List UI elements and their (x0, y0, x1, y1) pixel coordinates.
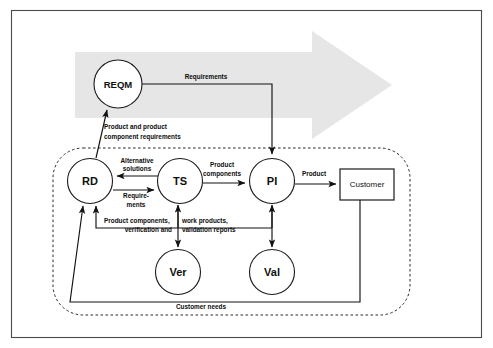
node-ts-label: TS (173, 175, 187, 187)
edge-label-ments: ments (127, 201, 146, 208)
edge-label-product-out: Product (302, 170, 327, 177)
edge-label-component-requirements: component requirements (104, 133, 181, 141)
node-customer-label: Customer (350, 180, 385, 189)
edge-label-requirements: Requirements (185, 73, 228, 81)
edge-label-product: Product (210, 161, 235, 168)
edge-label-solutions: solutions (123, 165, 152, 172)
node-rd-label: RD (82, 175, 98, 187)
edge-label-validation-reports: validation reports (182, 226, 236, 234)
edge-label-alternative: Alternative (120, 157, 153, 164)
edge-label-customer-needs: Customer needs (176, 303, 227, 310)
node-ver-label: Ver (169, 266, 187, 278)
edge-label-components: components (203, 170, 241, 178)
diagram-canvas: REQM RD TS PI Ver Val Customer Requireme… (0, 0, 493, 348)
edge-label-verification-and: verification and (125, 226, 172, 233)
edge-customer-needs (70, 200, 360, 302)
edge-label-product-components: Product components, (104, 217, 170, 225)
node-val-label: Val (264, 266, 280, 278)
edge-label-product-and-product: Product and product (104, 123, 168, 131)
node-reqm-label: REQM (104, 79, 133, 90)
node-pi-label: PI (267, 175, 277, 187)
engineering-process-diagram: REQM RD TS PI Ver Val Customer Requireme… (0, 0, 493, 348)
edge-label-require: Require- (123, 192, 149, 200)
edge-label-work-products: work products, (181, 217, 228, 225)
